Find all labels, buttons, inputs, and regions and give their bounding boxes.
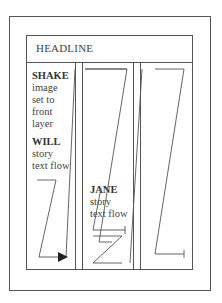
- long-flow-line: [66, 69, 75, 257]
- jane-flow: [93, 236, 122, 263]
- text-flow-diagram: [0, 0, 222, 303]
- col2-tail: [93, 188, 125, 230]
- col3-flow: [155, 69, 184, 254]
- shake-image-flow: [85, 69, 127, 242]
- will-flow: [37, 180, 64, 257]
